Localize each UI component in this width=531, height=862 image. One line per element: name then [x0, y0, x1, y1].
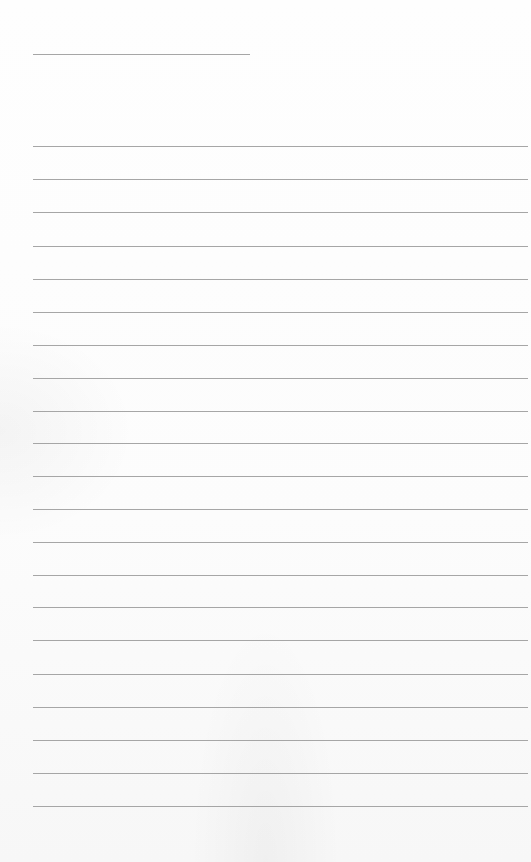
body-rule-line	[33, 312, 528, 313]
body-rule-line	[33, 476, 528, 477]
body-rule-line	[33, 179, 528, 180]
body-rule-line	[33, 640, 528, 641]
body-rule-line	[33, 575, 528, 576]
body-rule-line	[33, 443, 528, 444]
header-rule-line	[33, 54, 250, 55]
body-rule-line	[33, 773, 528, 774]
body-rule-line	[33, 707, 528, 708]
body-rule-line	[33, 607, 528, 608]
body-rule-line	[33, 542, 528, 543]
body-rule-line	[33, 212, 528, 213]
body-rule-line	[33, 146, 528, 147]
body-rule-line	[33, 378, 528, 379]
lined-paper-sheet	[0, 0, 531, 862]
body-rule-line	[33, 740, 528, 741]
body-rule-line	[33, 345, 528, 346]
body-rule-line	[33, 806, 528, 807]
body-rule-line	[33, 411, 528, 412]
body-rule-line	[33, 246, 528, 247]
body-rule-line	[33, 279, 528, 280]
body-rule-line	[33, 674, 528, 675]
body-rule-line	[33, 509, 528, 510]
